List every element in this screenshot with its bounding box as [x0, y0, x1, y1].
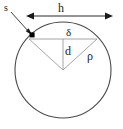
label-h: h	[58, 2, 64, 14]
label-rho: ρ	[87, 50, 93, 62]
point-marker-s	[30, 32, 35, 37]
label-d: d	[65, 45, 71, 57]
diagram-canvas	[0, 0, 123, 129]
dimension-arrowhead-left	[26, 13, 34, 20]
leader-line	[11, 12, 29, 32]
label-delta: δ	[66, 27, 71, 38]
dimension-arrowhead-right	[105, 13, 113, 20]
label-s: s	[4, 3, 8, 13]
geometry-figure: s h δ d ρ	[0, 0, 123, 129]
radius-left-line	[29, 39, 63, 70]
